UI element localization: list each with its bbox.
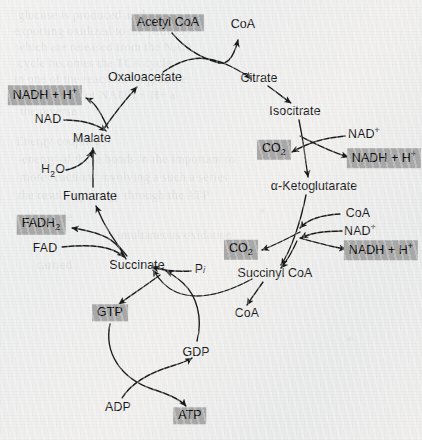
- metabolite-fumarate: Fumarate: [63, 190, 117, 202]
- metabolite-nad-plus-akg: NAD+: [344, 223, 376, 238]
- metabolite-adp: ADP: [105, 401, 131, 413]
- metabolite-acetyl-coa: Acetyl CoA: [132, 14, 204, 31]
- bleedthrough-line: which are released from the NAD: [16, 40, 191, 55]
- metabolite-citrate: Citrate: [240, 72, 277, 84]
- bleedthrough-line: carried: [36, 258, 72, 273]
- metabolite-alpha-ketoglutarate: α-Ketoglutarate: [271, 180, 358, 192]
- metabolite-nad-malate: NAD: [35, 113, 61, 125]
- metabolite-co2-iso: CO2: [257, 140, 291, 160]
- metabolite-nad-plus-iso: NAD+: [348, 126, 380, 141]
- metabolite-h2o: H2O: [41, 163, 65, 178]
- figure-canvas: glucose is produced as theexporting oxid…: [0, 0, 422, 440]
- metabolite-gtp: GTP: [92, 304, 128, 321]
- metabolite-coa-succ: CoA: [235, 307, 259, 319]
- metabolite-fad: FAD: [33, 242, 57, 254]
- metabolite-pi: Pi: [195, 263, 206, 275]
- metabolite-oxaloacetate: Oxaloacetate: [108, 71, 182, 83]
- metabolite-succinate: Succinate: [109, 259, 164, 271]
- metabolite-nadh-h-iso: NADH + H+: [347, 148, 421, 168]
- bleedthrough-line: simultaneous oxidation: [112, 228, 233, 243]
- metabolite-coa-top: CoA: [231, 18, 255, 30]
- metabolite-nadh-h-malate: NADH + H+: [8, 85, 82, 105]
- metabolite-atp: ATP: [173, 407, 206, 424]
- metabolite-nadh-h-akg: NADH + H+: [344, 240, 418, 260]
- metabolite-co2-akg: CO2: [224, 240, 258, 260]
- metabolite-fadh2: FADH2: [17, 215, 66, 235]
- metabolite-coa-akg: CoA: [346, 207, 370, 219]
- metabolite-gdp: GDP: [182, 346, 209, 358]
- metabolite-isocitrate: Isocitrate: [269, 105, 320, 117]
- metabolite-malate: Malate: [73, 132, 111, 144]
- bleedthrough-line: cycle becomes the TCA cycle: [18, 56, 172, 71]
- metabolite-succinyl-coa: Succinyl CoA: [238, 267, 313, 279]
